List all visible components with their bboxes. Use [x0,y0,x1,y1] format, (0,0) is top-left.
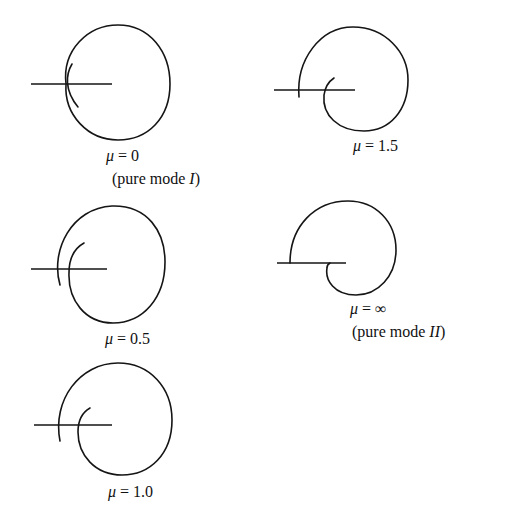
mu-symbol: μ [105,330,113,347]
trajectory-mu-1.5 [299,27,408,131]
equals-sign: = [116,483,133,500]
curve-mu-1.0 [34,363,172,475]
mu-symbol: μ [106,147,114,164]
mu-value: ∞ [375,300,386,317]
label-mu-infinity: μ = ∞ [350,300,386,318]
caption-prefix: (pure mode [112,170,189,187]
caption-prefix: (pure mode [352,323,429,340]
mu-symbol: μ [108,483,116,500]
caption-pure-mode-1: (pure mode I) [112,170,200,188]
caption-suffix: ) [440,323,445,340]
curve-mu-1.5 [274,27,408,131]
equals-sign: = [361,137,378,154]
curve-mu-0.5 [31,206,165,323]
equals-sign: = [358,300,375,317]
label-mu-1.0: μ = 1.0 [108,483,153,501]
equals-sign: = [113,330,130,347]
curve-mu-infinity [277,201,396,295]
diagram-canvas [0,0,518,517]
caption-mode: II [429,323,440,340]
trajectory-mu-0 [66,25,170,140]
trajectory-mu-infinity [290,201,396,295]
trajectory-mu-1.0 [59,363,172,475]
caption-suffix: ) [195,170,200,187]
trajectory-mu-0.5 [58,206,165,323]
curve-mu-0 [31,25,170,140]
mu-value: 0.5 [130,330,150,347]
mu-symbol: μ [350,300,358,317]
mu-value: 1.0 [133,483,153,500]
caption-pure-mode-2: (pure mode II) [352,323,445,341]
mu-symbol: μ [353,137,361,154]
label-mu-0.5: μ = 0.5 [105,330,150,348]
equals-sign: = [114,147,131,164]
mu-value: 0 [131,147,139,164]
inner-arc-mu-0 [67,64,78,107]
mu-value: 1.5 [378,137,398,154]
label-mu-1.5: μ = 1.5 [353,137,398,155]
label-mu-0: μ = 0 [106,147,139,165]
